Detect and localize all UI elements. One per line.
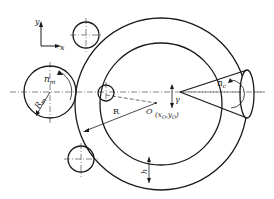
main-roll: nm Rm — [24, 62, 76, 124]
ring-rolling-diagram: y x nm Rm O (xO,yO) — [0, 0, 274, 199]
ring-center-label: O — [146, 107, 153, 116]
offset-line — [106, 95, 156, 103]
thickness-label: h — [140, 169, 149, 174]
offset-angle-marker: γ — [170, 84, 180, 108]
bottom-guide-roll — [64, 143, 98, 177]
ring-radius-label: R — [113, 107, 120, 116]
gamma-label: γ — [175, 95, 180, 104]
main-roll-radius-label: Rm — [33, 95, 48, 111]
conical-roll: nc — [180, 70, 254, 118]
ring-radius-dimension: R — [83, 103, 156, 132]
axes-indicator: y x — [34, 17, 65, 52]
ring-outer-circle — [75, 18, 247, 190]
x-axis-label: x — [60, 43, 65, 52]
ring-center-coords: (xO,yO) — [155, 111, 179, 120]
ring-inner-circle — [100, 43, 222, 165]
y-axis-label: y — [34, 17, 40, 26]
cone-speed-label: nc — [217, 78, 227, 89]
ring-thickness-dimension: h — [140, 157, 151, 183]
